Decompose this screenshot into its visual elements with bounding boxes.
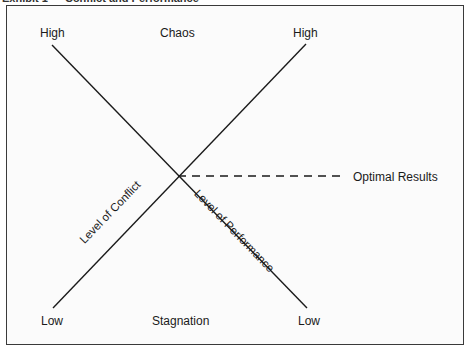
- label-low-right: Low: [298, 315, 320, 327]
- label-high-left: High: [40, 27, 65, 39]
- label-stagnation: Stagnation: [152, 315, 209, 327]
- label-chaos: Chaos: [160, 27, 195, 39]
- label-high-right: High: [293, 27, 318, 39]
- label-low-left: Low: [41, 315, 63, 327]
- label-optimal-results: Optimal Results: [353, 171, 438, 183]
